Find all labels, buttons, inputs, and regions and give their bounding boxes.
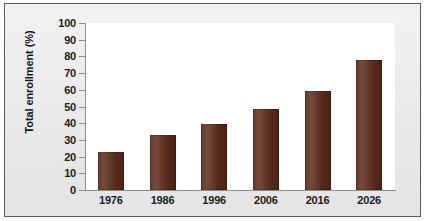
y-axis-tick-label: 60 [6,85,76,96]
bar [150,135,176,190]
y-axis-tick [79,173,85,174]
y-axis-tick [79,56,85,57]
plot-area [85,23,395,190]
bar [201,124,227,190]
bar-shading [201,124,227,190]
y-axis-tick-label: 100 [6,18,76,29]
y-axis-tick [79,123,85,124]
bar-chart-figure: Total enrollment (%) 1009080706050403020… [0,0,425,221]
y-axis-tick-label: 20 [6,152,76,163]
y-axis-tick [79,107,85,108]
y-axis-tick [79,190,85,191]
y-axis-tick-label: 40 [6,118,76,129]
bar-shading [253,109,279,190]
y-axis-tick-label: 0 [6,185,76,196]
x-axis-line [85,190,396,191]
y-axis-tick [79,157,85,158]
bar [305,91,331,190]
chart-frame: Total enrollment (%) 1009080706050403020… [4,3,421,217]
bar-shading [98,152,124,190]
bar-shading [356,60,382,190]
y-axis-tick [79,140,85,141]
y-axis-tick-label: 90 [6,35,76,46]
y-axis-tick-label: 10 [6,168,76,179]
x-axis-tick-label: 2026 [339,194,399,206]
y-axis-tick-label: 30 [6,135,76,146]
y-axis-tick-label: 80 [6,51,76,62]
y-axis-tick [79,40,85,41]
bar [253,109,279,190]
y-axis-tick [79,23,85,24]
bar-shading [150,135,176,190]
y-axis-tick-label: 50 [6,102,76,113]
y-axis-tick-labels: 1009080706050403020100 [5,4,76,218]
bar-shading [305,91,331,190]
y-axis-tick [79,73,85,74]
bar [356,60,382,190]
y-axis-tick-label: 70 [6,68,76,79]
y-axis-tick [79,90,85,91]
bar [98,152,124,190]
y-axis-line [85,23,86,191]
